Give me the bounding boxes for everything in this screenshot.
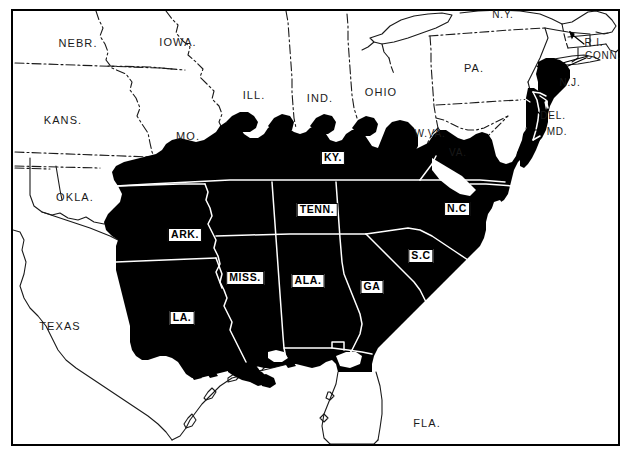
map-canvas [0, 0, 634, 463]
map-root: NEBR.IOWA.N.Y.R.I.CONN.ILL.IND.OHIOPA.N.… [0, 0, 634, 463]
